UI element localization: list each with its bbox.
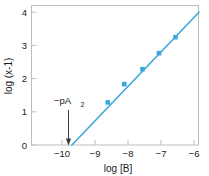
x-tick-label-neg6: −6 <box>189 148 200 159</box>
data-point-1 <box>106 100 111 105</box>
y-tick-label-2: 2 <box>22 73 27 84</box>
chart-canvas: 0 1 2 3 4 −10 −9 −8 −7 −6 <box>0 0 209 176</box>
data-point-3 <box>140 67 145 72</box>
x-axis-title: log [B] <box>104 163 133 174</box>
data-point-2 <box>122 82 127 87</box>
y-tick-label-4: 4 <box>22 7 27 18</box>
x-tick-label-neg9: −9 <box>90 148 101 159</box>
x-tick-labels: −10 −9 −8 −7 −6 <box>54 148 199 159</box>
y-axis-title: log (x-1) <box>3 58 14 95</box>
y-axis-title-group: log (x-1) <box>3 58 14 95</box>
annotation-text: −pA <box>54 95 72 106</box>
y-tick-label-0: 0 <box>22 140 27 151</box>
x-axis-title-group: log [B] <box>104 163 133 174</box>
annotation-subscript: 2 <box>81 101 85 108</box>
y-tick-labels: 0 1 2 3 4 <box>22 7 27 151</box>
x-tick-label-neg8: −8 <box>123 148 134 159</box>
data-point-4 <box>157 51 162 56</box>
data-point-5 <box>173 35 178 40</box>
y-tick-label-1: 1 <box>22 106 27 117</box>
x-tick-label-neg7: −7 <box>156 148 167 159</box>
schild-plot-figure: 0 1 2 3 4 −10 −9 −8 −7 −6 <box>0 0 209 176</box>
x-tick-label-neg10: −10 <box>54 148 70 159</box>
axes-frame <box>32 6 199 146</box>
plot-area-border <box>32 6 199 146</box>
y-tick-label-3: 3 <box>22 40 27 51</box>
